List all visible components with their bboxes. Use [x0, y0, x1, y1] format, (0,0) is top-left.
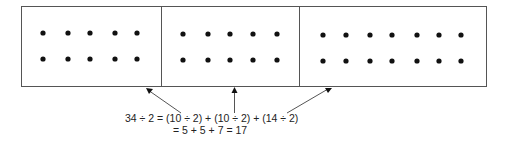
dot-group-1 — [40, 30, 139, 61]
outer-box — [22, 7, 487, 87]
arrow-1-icon — [146, 88, 181, 113]
dot-group-3 — [320, 32, 463, 63]
arrow-2-icon — [232, 87, 238, 113]
arrow-3-icon — [287, 88, 332, 113]
equation-line-1: 34 ÷ 2 = (10 ÷ 2) + (10 ÷ 2) + (14 ÷ 2) — [125, 112, 298, 124]
equation-line-2: = 5 + 5 + 7 = 17 — [173, 124, 247, 136]
dot-group-2 — [180, 31, 279, 62]
